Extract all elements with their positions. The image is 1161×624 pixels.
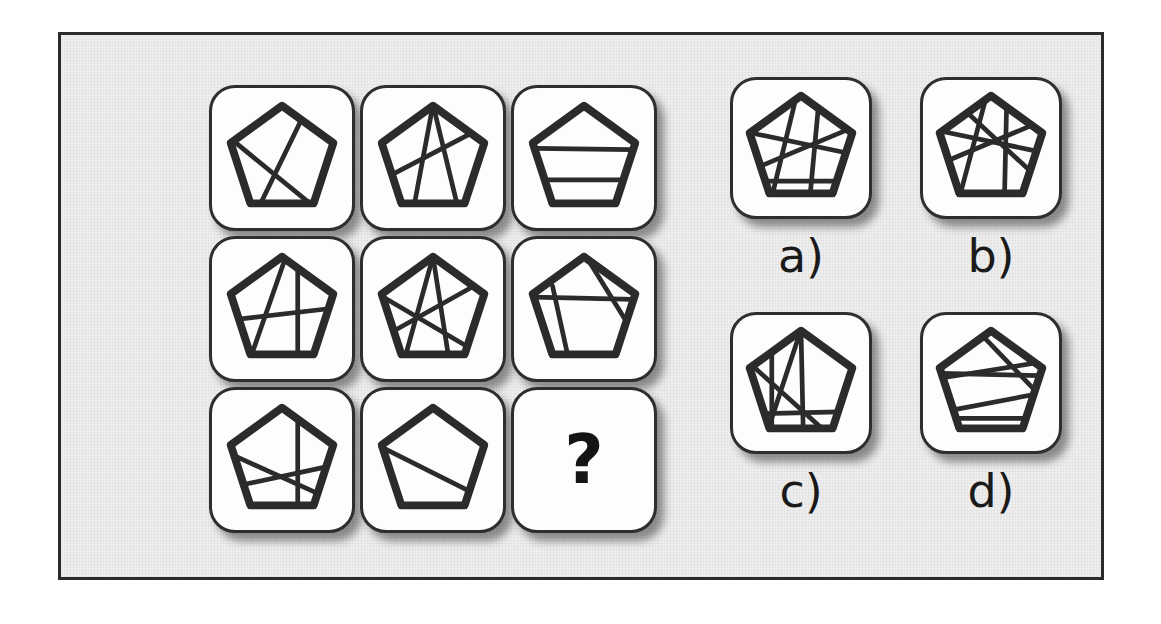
pentagon-figure-option-b (932, 89, 1050, 207)
puzzle-root: ? a)b)c)d) (0, 0, 1161, 624)
pentagon-figure-option-a (742, 89, 860, 207)
matrix-cell-r2c2 (360, 236, 506, 382)
option-label-c: c) (779, 468, 822, 514)
option-tile-d[interactable] (920, 312, 1062, 454)
option-a[interactable]: a) (721, 77, 881, 312)
question-mark: ? (564, 426, 603, 494)
matrix-cell-r3c1 (209, 387, 355, 533)
option-tile-c[interactable] (730, 312, 872, 454)
pentagon-outline (533, 106, 636, 204)
option-label-a: a) (778, 233, 824, 279)
pentagon-figure-option-d (932, 324, 1050, 442)
option-b[interactable]: b) (911, 77, 1071, 312)
pentagon-figure-r1c2 (374, 99, 492, 217)
pentagon-figure-r3c1 (223, 401, 341, 519)
pentagon-figure-r2c3 (525, 250, 643, 368)
option-c[interactable]: c) (721, 312, 881, 547)
matrix-cell-r2c3 (511, 236, 657, 382)
matrix-cell-r1c3 (511, 85, 657, 231)
option-label-d: d) (967, 468, 1014, 514)
pentagon-chord-5 (969, 114, 1030, 171)
puzzle-panel: ? a)b)c)d) (58, 32, 1104, 580)
pentagon-chord-1 (536, 148, 632, 149)
pentagon-figure-r3c2 (374, 401, 492, 519)
matrix-cell-r2c1 (209, 236, 355, 382)
option-tile-a[interactable] (730, 77, 872, 219)
pentagon-outline (533, 257, 636, 355)
pentagon-outline (231, 408, 334, 506)
matrix-grid: ? (207, 83, 659, 535)
pentagon-figure-option-c (742, 324, 860, 442)
pentagon-chord-3 (953, 395, 1033, 410)
option-d[interactable]: d) (911, 312, 1071, 547)
matrix-cell-r1c1 (209, 85, 355, 231)
matrix-cell-r1c2 (360, 85, 506, 231)
answer-options: a)b)c)d) (721, 77, 1071, 547)
pentagon-figure-r1c3 (525, 99, 643, 217)
option-tile-b[interactable] (920, 77, 1062, 219)
pentagon-figure-r2c2 (374, 250, 492, 368)
pentagon-figure-r2c1 (223, 250, 341, 368)
pentagon-chord-1 (534, 297, 634, 299)
pentagon-chord-3 (392, 133, 471, 174)
pentagon-chord-3 (760, 130, 847, 167)
pentagon-chord-3 (244, 467, 327, 485)
option-label-b: b) (967, 233, 1014, 279)
matrix-cell-r3c2 (360, 387, 506, 533)
pentagon-chord-2 (239, 309, 329, 319)
pentagon-chord-4 (765, 412, 839, 414)
matrix-cell-question: ? (511, 387, 657, 533)
pentagon-figure-r1c1 (223, 99, 341, 217)
